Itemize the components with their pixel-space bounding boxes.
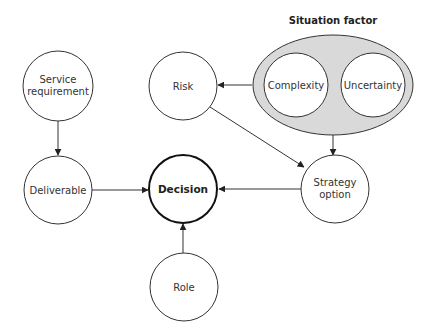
node-uncertainty-label: Uncertainty bbox=[344, 80, 403, 91]
node-decision-label: Decision bbox=[158, 183, 208, 195]
node-role-label: Role bbox=[173, 282, 195, 293]
node-strategy-option-label-line2: option bbox=[319, 189, 351, 200]
node-service-requirement-label-line1: Service bbox=[40, 74, 77, 85]
situation-factor-title: Situation factor bbox=[289, 15, 378, 26]
node-deliverable-label: Deliverable bbox=[30, 185, 87, 196]
diagram-canvas: Situation factor Complexity Uncertainty … bbox=[0, 0, 431, 333]
node-complexity-label: Complexity bbox=[268, 80, 325, 91]
node-strategy-option-label-line1: Strategy bbox=[314, 177, 357, 188]
node-service-requirement-label-line2: requirement bbox=[27, 86, 89, 97]
node-risk-label: Risk bbox=[173, 81, 194, 92]
